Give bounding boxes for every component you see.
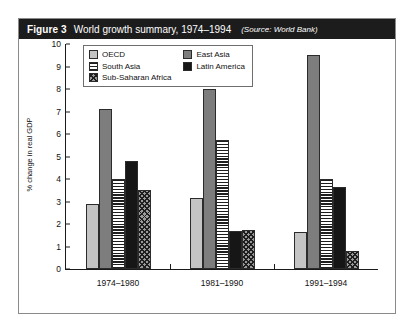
y-tick-label: 9 [31, 62, 66, 72]
legend-item-label: OECD [102, 50, 125, 59]
x-axis-divider [170, 264, 171, 269]
figure-number: Figure 3 [27, 24, 67, 35]
legend-item: Latin America [183, 62, 244, 71]
legend-item-label: Sub-Saharan Africa [102, 73, 171, 82]
x-tick-label: 1991–1994 [305, 278, 348, 288]
bar [229, 231, 242, 269]
legend-item: East Asia [183, 50, 244, 59]
bar [203, 89, 216, 269]
figure-title: World growth summary, 1974–1994 [74, 24, 232, 35]
bar [294, 232, 307, 269]
bar [112, 179, 125, 269]
y-tick-label: 5 [31, 152, 66, 162]
figure-panel: Figure 3 World growth summary, 1974–1994… [18, 18, 396, 314]
x-tick-label: 1974–1980 [97, 278, 140, 288]
y-tick-label: 8 [31, 84, 66, 94]
legend-item: South Asia [89, 62, 171, 71]
y-tick-label: 4 [31, 174, 66, 184]
bar-group [274, 44, 378, 269]
legend-swatch-icon [89, 62, 98, 71]
bar [320, 179, 333, 269]
figure-source: (Source: World Bank) [241, 25, 317, 34]
legend-column-left: OECDSouth AsiaSub-Saharan Africa [89, 50, 171, 82]
x-axis-divider [274, 264, 275, 269]
y-tick-label: 1 [31, 242, 66, 252]
bar [99, 109, 112, 269]
plot-area: % change in real GDP 012345678910 1974–1… [19, 39, 395, 315]
bar [346, 251, 359, 269]
bar [242, 230, 255, 269]
figure-title-bar: Figure 3 World growth summary, 1974–1994… [19, 19, 395, 39]
legend-swatch-icon [183, 50, 192, 59]
y-tick-label: 0 [31, 264, 66, 274]
bar [138, 190, 151, 269]
chart-legend: OECDSouth AsiaSub-Saharan Africa East As… [83, 45, 253, 87]
legend-item: OECD [89, 50, 171, 59]
legend-item-label: South Asia [102, 62, 140, 71]
y-tick-label: 6 [31, 129, 66, 139]
y-tick-label: 7 [31, 107, 66, 117]
bar [86, 204, 99, 269]
y-tick-label: 3 [31, 197, 66, 207]
legend-swatch-icon [89, 73, 98, 82]
bar [333, 187, 346, 269]
legend-item-label: East Asia [196, 50, 229, 59]
legend-swatch-icon [89, 50, 98, 59]
bar [216, 140, 229, 269]
bar [307, 55, 320, 269]
legend-swatch-icon [183, 62, 192, 71]
legend-item: Sub-Saharan Africa [89, 73, 171, 82]
legend-column-right: East AsiaLatin America [183, 50, 244, 82]
x-tick-label: 1981–1990 [201, 278, 244, 288]
y-tick-label: 10 [31, 39, 66, 49]
legend-item-label: Latin America [196, 62, 244, 71]
bar [125, 161, 138, 269]
bar [190, 198, 203, 269]
y-tick-label: 2 [31, 219, 66, 229]
